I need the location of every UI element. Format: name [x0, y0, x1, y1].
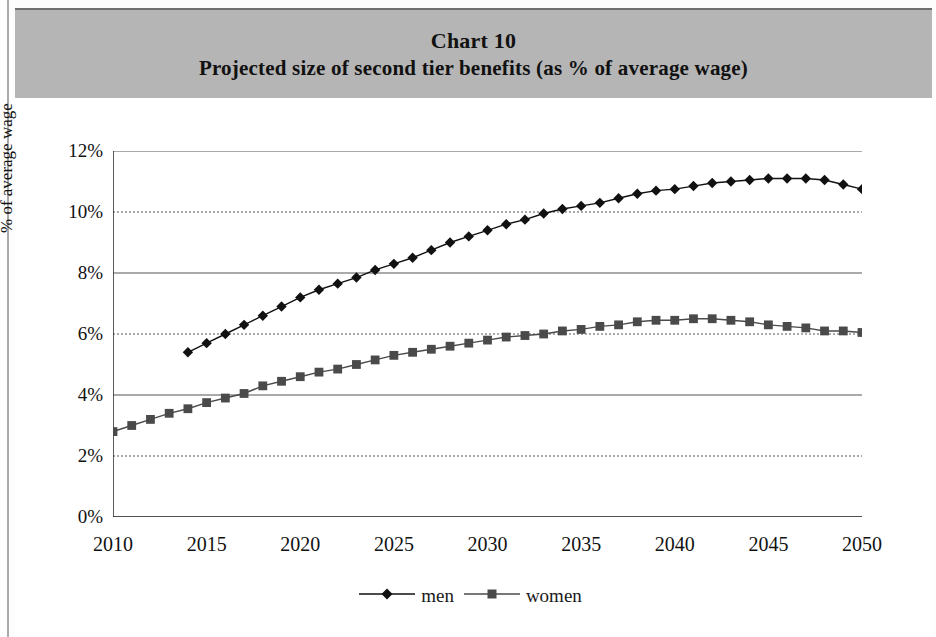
square-marker-icon — [464, 585, 520, 607]
data-point-women — [146, 415, 155, 424]
y-axis-title: % of average wage — [0, 3, 17, 233]
y-tick-label: 2% — [45, 445, 103, 467]
x-tick-label: 2040 — [635, 533, 715, 556]
data-point-women — [577, 325, 586, 334]
chart-subtitle: Projected size of second tier benefits (… — [199, 56, 748, 80]
y-tick-label: 10% — [45, 201, 103, 223]
data-point-men — [183, 347, 193, 357]
data-point-men — [557, 204, 567, 214]
diamond-marker-icon — [359, 585, 415, 607]
data-point-women — [464, 339, 473, 348]
data-point-men — [445, 237, 455, 247]
data-point-men — [688, 181, 698, 191]
data-point-women — [801, 324, 810, 333]
data-point-women — [165, 409, 174, 418]
legend-entry-women[interactable]: women — [464, 585, 588, 607]
data-point-men — [595, 198, 605, 208]
data-point-men — [464, 231, 474, 241]
y-tick-label: 8% — [45, 262, 103, 284]
data-point-women — [708, 314, 717, 323]
data-point-women — [315, 368, 324, 377]
data-point-men — [314, 285, 324, 295]
chart-number-title: Chart 10 — [431, 28, 516, 54]
data-point-women — [820, 327, 829, 336]
legend-label: women — [526, 585, 582, 607]
data-point-men — [276, 301, 286, 311]
data-point-women — [839, 327, 848, 336]
data-point-men — [520, 214, 530, 224]
data-point-men — [370, 265, 380, 275]
x-tick-label: 2035 — [541, 533, 621, 556]
data-point-men — [220, 329, 230, 339]
data-point-women — [113, 427, 117, 436]
x-tick-label: 2045 — [728, 533, 808, 556]
data-point-men — [651, 185, 661, 195]
data-point-women — [352, 360, 361, 369]
y-tick-label: 4% — [45, 384, 103, 406]
data-point-men — [501, 219, 511, 229]
data-point-men — [726, 176, 736, 186]
data-point-men — [482, 225, 492, 235]
data-point-women — [202, 398, 211, 407]
x-tick-label: 2010 — [73, 533, 153, 556]
x-tick-label: 2050 — [822, 533, 902, 556]
data-point-men — [426, 245, 436, 255]
data-point-men — [632, 189, 642, 199]
chart-body: % of average wage 0%2%4%6%8%10%12% 20102… — [15, 98, 932, 637]
data-point-men — [613, 193, 623, 203]
plot-area — [113, 151, 862, 517]
chart-page: Chart 10 Projected size of second tier b… — [0, 0, 936, 637]
x-tick-label: 2020 — [260, 533, 340, 556]
data-point-men — [351, 272, 361, 282]
data-point-women — [184, 404, 193, 413]
y-tick-label: 0% — [45, 506, 103, 528]
data-point-women — [614, 320, 623, 329]
data-point-men — [707, 178, 717, 188]
data-point-women — [539, 330, 548, 339]
data-point-women — [689, 314, 698, 323]
data-point-men — [333, 278, 343, 288]
data-point-men — [389, 259, 399, 269]
x-tick-label: 2025 — [354, 533, 434, 556]
data-point-women — [446, 342, 455, 351]
data-point-men — [744, 175, 754, 185]
x-tick-label: 2015 — [167, 533, 247, 556]
chart-title-band: Chart 10 Projected size of second tier b… — [15, 8, 932, 98]
data-point-men — [670, 184, 680, 194]
x-tick-label: 2030 — [448, 533, 528, 556]
data-point-men — [201, 338, 211, 348]
legend-label: men — [421, 585, 454, 607]
data-point-men — [763, 173, 773, 183]
data-point-women — [502, 333, 511, 342]
data-point-women — [633, 317, 642, 326]
data-point-men — [407, 253, 417, 263]
data-point-women — [427, 345, 436, 354]
data-point-men — [838, 179, 848, 189]
data-point-women — [727, 316, 736, 325]
data-point-women — [595, 322, 604, 331]
data-point-men — [801, 173, 811, 183]
data-point-women — [221, 394, 230, 403]
data-point-women — [652, 316, 661, 325]
data-point-women — [558, 327, 567, 336]
data-point-women — [258, 381, 267, 390]
data-point-women — [764, 320, 773, 329]
data-point-women — [783, 322, 792, 331]
data-point-women — [521, 331, 530, 340]
data-point-men — [857, 184, 862, 194]
data-point-men — [258, 311, 268, 321]
data-point-women — [858, 328, 862, 337]
legend-entry-men[interactable]: men — [359, 585, 460, 607]
data-point-women — [389, 351, 398, 360]
data-point-women — [296, 372, 305, 381]
data-point-women — [240, 389, 249, 398]
data-point-women — [408, 348, 417, 357]
data-point-men — [782, 173, 792, 183]
chart-canvas — [113, 151, 862, 517]
y-tick-label: 12% — [45, 140, 103, 162]
data-point-women — [745, 317, 754, 326]
data-point-men — [538, 208, 548, 218]
data-point-women — [371, 356, 380, 365]
data-point-men — [295, 292, 305, 302]
data-point-men — [576, 201, 586, 211]
